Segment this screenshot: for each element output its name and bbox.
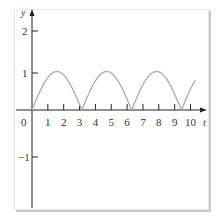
x-tick-labels: 12345678910 (45, 116, 196, 128)
x-axis-label: t (203, 117, 206, 128)
chart-svg: y 2 1 −1 0 t 12345678910 (0, 0, 222, 222)
x-ticks (48, 104, 191, 110)
x-tick-label-2: 2 (61, 116, 67, 128)
curve-abs-sin (32, 72, 195, 111)
x-tick-label-10: 10 (185, 116, 197, 128)
x-axis-arrow-icon (200, 108, 207, 113)
x-tick-label-3: 3 (77, 116, 83, 128)
x-tick-label-5: 5 (109, 116, 115, 128)
y-axis-label: y (20, 7, 26, 18)
y-tick-label-1: 1 (22, 67, 28, 79)
x-tick-label-6: 6 (124, 116, 130, 128)
x-tick-label-4: 4 (93, 116, 99, 128)
x-tick-label-9: 9 (172, 116, 178, 128)
y-axis-arrow-icon (30, 9, 35, 16)
x-tick-label-1: 1 (45, 116, 51, 128)
origin-label: 0 (21, 116, 27, 128)
x-tick-label-8: 8 (156, 116, 162, 128)
y-tick-label-neg1: −1 (18, 151, 30, 163)
x-tick-label-7: 7 (140, 116, 146, 128)
y-tick-label-2: 2 (22, 25, 28, 37)
